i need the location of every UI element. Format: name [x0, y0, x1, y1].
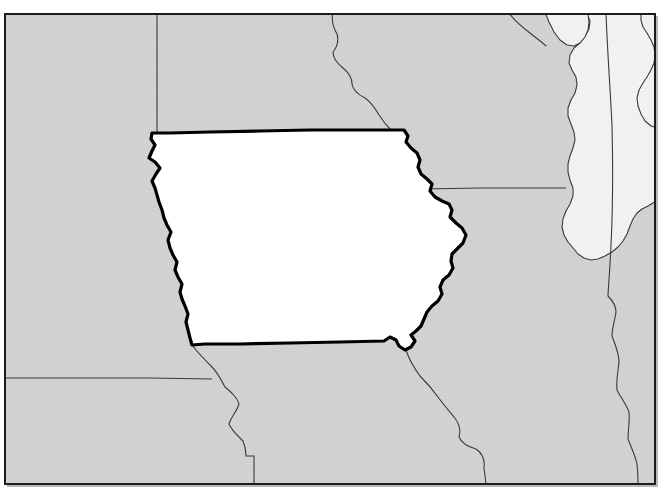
state-iowa-highlight[interactable]	[149, 130, 466, 350]
map-container: Iowa locator map	[0, 0, 664, 493]
locator-map-svg	[0, 0, 664, 493]
